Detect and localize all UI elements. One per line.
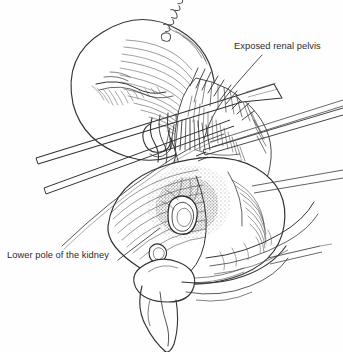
- illustration-canvas: [0, 0, 343, 352]
- surgical-illustration-figure: Exposed renal pelvis Lower pole of the k…: [0, 0, 343, 352]
- label-lower-pole-of-the-kidney: Lower pole of the kidney: [7, 250, 109, 261]
- label-exposed-renal-pelvis: Exposed renal pelvis: [234, 41, 321, 52]
